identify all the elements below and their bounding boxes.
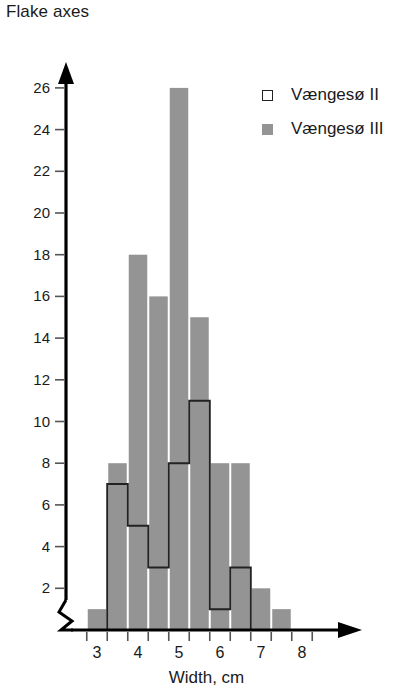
y-tick-label: 20: [16, 204, 50, 221]
y-tick-label: 14: [16, 329, 50, 346]
y-tick-label: 26: [16, 79, 50, 96]
bar-vaengeso-iii: [88, 609, 107, 630]
legend: Vængesø II Vængesø III: [262, 78, 412, 146]
bar-vaengeso-iii: [272, 609, 291, 630]
legend-label-vaengeso-iii: Vængesø III: [291, 119, 384, 139]
y-tick-label: 8: [16, 454, 50, 471]
x-tick-label: 6: [208, 644, 232, 662]
legend-label-vaengeso-ii: Vængesø II: [291, 85, 379, 105]
legend-item-vaengeso-iii[interactable]: Vængesø III: [262, 112, 412, 146]
y-tick-label: 18: [16, 246, 50, 263]
y-tick-label: 4: [16, 538, 50, 555]
bar-vaengeso-iii: [108, 463, 127, 630]
bar-vaengeso-iii: [190, 317, 209, 630]
x-tick-label: 4: [126, 644, 150, 662]
y-tick-label: 12: [16, 371, 50, 388]
y-tick-label: 22: [16, 162, 50, 179]
y-tick-label: 24: [16, 121, 50, 138]
y-axis-arrowhead: [58, 62, 74, 84]
bar-vaengeso-iii: [211, 463, 230, 630]
x-tick-label: 5: [167, 644, 191, 662]
axis-break-zigzag: [59, 600, 73, 630]
bar-vaengeso-iii: [170, 88, 189, 630]
x-tick-label: 8: [290, 644, 314, 662]
y-tick-label: 6: [16, 496, 50, 513]
y-tick-label: 16: [16, 287, 50, 304]
x-axis-title: Width, cm: [0, 668, 413, 688]
x-tick-label: 7: [249, 644, 273, 662]
y-tick-label: 2: [16, 579, 50, 596]
bar-vaengeso-iii: [129, 255, 148, 630]
bar-vaengeso-iii: [149, 296, 168, 630]
x-axis-arrowhead: [338, 622, 362, 638]
open-square-icon: [262, 90, 273, 101]
series-vaengeso-iii-bars: [88, 88, 291, 630]
bar-vaengeso-iii: [231, 463, 250, 630]
bar-vaengeso-iii: [252, 588, 271, 630]
y-tick-label: 10: [16, 413, 50, 430]
filled-square-icon: [262, 124, 273, 135]
figure-container: Flake axes 2624222018161412108642 345678…: [0, 0, 413, 699]
legend-item-vaengeso-ii[interactable]: Vængesø II: [262, 78, 412, 112]
x-tick-label: 3: [85, 644, 109, 662]
